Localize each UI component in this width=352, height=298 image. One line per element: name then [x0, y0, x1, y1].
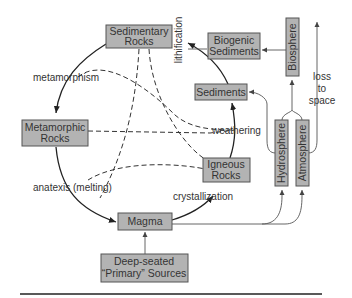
lithification-label: lithification: [173, 17, 184, 64]
biosphere-node: Biosphere: [286, 18, 299, 76]
sediments-label: Sediments: [196, 86, 246, 98]
metamorphism-label: metamorphism: [33, 72, 99, 83]
deep-sources-label-2: “Primary” Sources: [102, 267, 187, 279]
atmosphere-label: Atmosphere: [296, 125, 308, 182]
hydrosphere-node: Hydrosphere: [275, 120, 288, 186]
hydrosphere-label: Hydrosphere: [275, 123, 287, 183]
metamorphic-rocks-label-2: Rocks: [40, 132, 69, 144]
biogenic-sediments-label-2: Sediments: [209, 45, 259, 57]
weathering-dashed-from-magma-arc: [88, 165, 210, 180]
atmosphere-node: Atmosphere: [296, 120, 309, 186]
sediments-node: Sediments: [195, 84, 247, 100]
igneous-rocks-label-2: Rocks: [211, 169, 240, 181]
rock-cycle-diagram: Sedimentary Rocks Metamorphic Rocks Igne…: [0, 0, 352, 298]
deep-sources-label-1: Deep-seated: [114, 255, 174, 267]
biogenic-sediments-node: Biogenic Sediments: [208, 33, 260, 59]
fork-left: [282, 110, 292, 120]
igneous-rocks-node: Igneous Rocks: [203, 158, 250, 182]
loss-to-space-label-2: to: [318, 83, 327, 94]
weathering-dashed-from-sedimentary-1: [100, 49, 139, 198]
sedimentary-rocks-node: Sedimentary Rocks: [106, 25, 172, 48]
deep-seated-primary-sources-node: Deep-seated “Primary” Sources: [101, 254, 188, 282]
weathering-label: weathering: [211, 125, 261, 136]
fork-right: [292, 110, 302, 120]
loss-to-space-label-3: space: [309, 95, 336, 106]
magma-node: Magma: [118, 213, 172, 230]
metamorphic-rocks-node: Metamorphic Rocks: [22, 120, 88, 146]
magma-label: Magma: [127, 215, 162, 227]
anatexis-label: anatexis (melting): [33, 182, 112, 193]
biosphere-label: Biosphere: [286, 23, 298, 70]
loss-to-space-label-1: loss: [313, 71, 331, 82]
sedimentary-rocks-label-2: Rocks: [124, 35, 153, 47]
weathering-dashed-from-sedimentary-2: [149, 49, 210, 162]
crystallization-label: crystallization: [173, 191, 233, 202]
